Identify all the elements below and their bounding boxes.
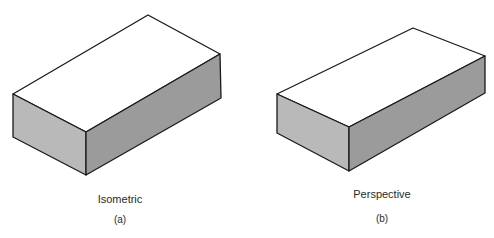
perspective-box xyxy=(277,28,485,171)
caption-isometric: Isometric xyxy=(98,193,143,205)
sublabel-b: (b) xyxy=(376,213,388,224)
projection-comparison-figure: Isometric (a) Perspective (b) xyxy=(0,0,494,238)
boxes-drawing xyxy=(0,0,494,238)
isometric-box xyxy=(13,15,221,175)
sublabel-a: (a) xyxy=(114,214,126,225)
caption-perspective: Perspective xyxy=(353,188,410,200)
